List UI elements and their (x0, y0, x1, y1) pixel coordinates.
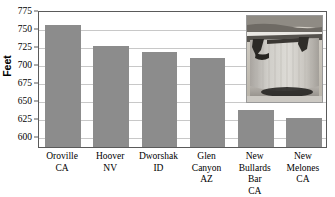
bar (45, 25, 81, 147)
y-axis-tick-label: 700 (18, 60, 32, 70)
bar (238, 110, 274, 147)
y-axis-tick-label: 775 (18, 6, 32, 16)
x-axis-category-label: DworshakID (134, 151, 182, 174)
y-axis-tick-label: 650 (18, 96, 32, 106)
bar-chart: Feet 600625650675700725750775 (0, 0, 335, 196)
y-axis-tick-label: 750 (18, 24, 32, 34)
y-axis-tick-label: 600 (18, 132, 32, 142)
x-axis-label-line: Glen (183, 151, 231, 163)
x-axis-label-line: Oroville (38, 151, 86, 163)
bar (93, 46, 129, 147)
y-axis-tick-label: 625 (18, 114, 32, 124)
x-axis-label-line: NV (86, 163, 134, 175)
x-axis-label-line: Canyon (183, 163, 231, 175)
y-axis-tick-label: 675 (18, 78, 32, 88)
dam-photo-image (247, 16, 322, 102)
x-axis-label-line: Hoover (86, 151, 134, 163)
y-axis-tick-labels: 600625650675700725750775 (0, 0, 38, 196)
x-axis-label-line: New (279, 151, 327, 163)
bar (142, 52, 178, 147)
bar (190, 58, 226, 147)
x-axis-category-labels: OrovilleCAHooverNVDworshakIDGlenCanyonAZ… (38, 151, 327, 196)
bar (286, 118, 322, 147)
x-axis-category-label: HooverNV (86, 151, 134, 174)
x-axis-label-line: New (231, 151, 279, 163)
x-axis-category-label: NewMelonesCA (279, 151, 327, 186)
x-axis-label-line: CA (279, 174, 327, 186)
x-axis-label-line: Bullards Bar (231, 163, 279, 186)
x-axis-label-line: Dworshak (134, 151, 182, 163)
x-axis-label-line: CA (38, 163, 86, 175)
x-axis-label-line: CA (231, 186, 279, 197)
x-axis-label-line: AZ (183, 174, 231, 186)
x-axis-category-label: OrovilleCA (38, 151, 86, 174)
dam-photo-inset (246, 15, 323, 103)
x-axis-category-label: NewBullards BarCA (231, 151, 279, 196)
y-axis-tick-label: 725 (18, 42, 32, 52)
x-axis-label-line: ID (134, 163, 182, 175)
x-axis-category-label: GlenCanyonAZ (183, 151, 231, 186)
x-axis-label-line: Melones (279, 163, 327, 175)
